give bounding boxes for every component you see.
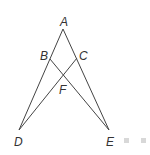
geometry-diagram: A B C F D E [0, 0, 150, 155]
decoration-square [124, 138, 129, 143]
segment-CD [19, 58, 77, 130]
segment-AE [63, 29, 109, 130]
label-F: F [59, 83, 67, 97]
label-E: E [106, 135, 115, 149]
label-D: D [14, 135, 23, 149]
label-A: A [59, 15, 68, 29]
label-C: C [79, 49, 88, 63]
segment-AD [19, 29, 63, 130]
decoration-square [141, 138, 146, 143]
label-B: B [40, 49, 48, 63]
